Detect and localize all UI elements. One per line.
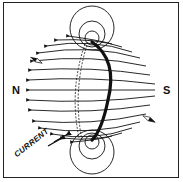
field-diagram: [0, 0, 183, 182]
compass-needle-right: [142, 114, 156, 124]
current-arrows: [48, 134, 68, 146]
wire-loop: [92, 42, 111, 140]
north-pole-label: N: [12, 84, 20, 96]
south-pole-label: S: [163, 84, 170, 96]
wire-loop-back: [78, 42, 88, 140]
field-lines: [28, 36, 155, 142]
